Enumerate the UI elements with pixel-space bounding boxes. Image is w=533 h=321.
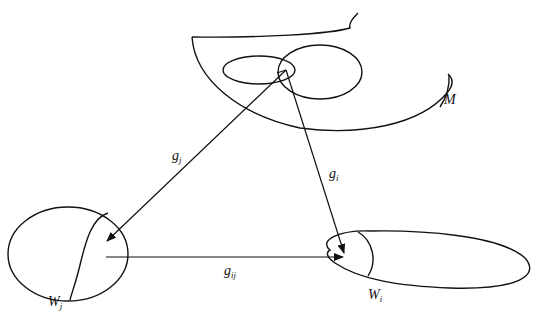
chart-domain-wi — [327, 231, 530, 288]
map-gj-arrow — [107, 70, 286, 241]
chart-domain-wj-label: Wj — [48, 294, 63, 311]
diagram-canvas: M gj gi gij Wj Wi — [0, 0, 533, 321]
map-gj-label: gj — [172, 148, 182, 165]
map-gi-label: gi — [329, 166, 339, 183]
chart-image-wi-boundary — [358, 232, 373, 276]
manifold-label: M — [443, 92, 457, 107]
chart-domain-wj — [8, 207, 128, 301]
chart-image-wj-boundary — [70, 213, 108, 300]
open-set-ui — [278, 45, 362, 99]
chart-domain-wi-label: Wi — [368, 287, 383, 304]
manifold-top-curve — [192, 13, 358, 37]
manifold-boundary — [192, 37, 452, 131]
map-gij-label: gij — [224, 263, 237, 280]
